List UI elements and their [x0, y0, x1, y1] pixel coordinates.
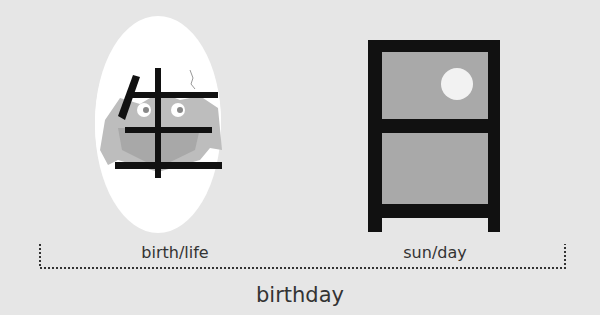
- label-birth-life: birth/life: [100, 243, 250, 262]
- label-birthday: birthday: [200, 283, 400, 307]
- label-sun-day: sun/day: [365, 243, 505, 262]
- kanji-nichi-window-icon: [368, 40, 500, 232]
- kanji-illustration: [0, 0, 600, 315]
- sun-icon: [441, 68, 473, 100]
- egg-chick-icon: [95, 16, 222, 233]
